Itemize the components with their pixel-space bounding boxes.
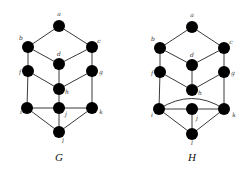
vertex-g: [218, 66, 230, 78]
vertex-a: [186, 21, 198, 33]
vertex-d: [53, 58, 65, 70]
vertex-f: [154, 66, 166, 78]
vertex-label-a: a: [190, 11, 194, 18]
edge-i-l: [159, 109, 192, 134]
graph-g: abcdfghijklG: [18, 10, 103, 163]
vertex-label-d: d: [190, 51, 194, 58]
vertex-label-c: c: [229, 38, 233, 45]
graph-h: abcdfghijklH: [150, 11, 236, 163]
vertex-label-i: i: [20, 108, 22, 115]
vertex-label-l: l: [191, 139, 193, 146]
vertex-label-h: h: [198, 89, 202, 96]
vertex-j: [53, 102, 65, 114]
vertex-k: [218, 103, 230, 115]
vertex-label-b: b: [151, 35, 155, 42]
edge-k-l: [59, 108, 92, 132]
vertex-label-k: k: [232, 111, 236, 118]
vertex-label-g: g: [231, 69, 235, 77]
vertex-label-c: c: [97, 37, 101, 44]
vertex-h: [186, 84, 198, 96]
vertex-label-d: d: [57, 50, 61, 57]
edge-k-l: [192, 109, 224, 134]
vertex-label-j: j: [194, 114, 198, 122]
vertex-c: [218, 42, 230, 54]
vertex-h: [53, 83, 65, 95]
graph-name-label: G: [55, 151, 63, 163]
vertex-g: [86, 65, 98, 77]
vertex-label-a: a: [57, 10, 61, 17]
vertex-b: [22, 41, 34, 53]
graph-diagram-canvas: abcdfghijklG abcdfghijklH: [0, 0, 248, 175]
vertex-i: [21, 102, 33, 114]
vertex-c: [86, 41, 98, 53]
vertex-label-h: h: [65, 88, 69, 95]
vertex-label-i: i: [151, 111, 153, 118]
vertex-i: [153, 103, 165, 115]
vertex-label-g: g: [99, 68, 103, 76]
vertex-k: [86, 102, 98, 114]
vertex-a: [53, 20, 65, 32]
vertex-label-b: b: [19, 34, 23, 41]
vertex-label-l: l: [62, 137, 64, 144]
vertex-d: [186, 59, 198, 71]
vertex-b: [154, 42, 166, 54]
vertex-f: [22, 65, 34, 77]
vertex-label-k: k: [99, 108, 103, 115]
graph-name-label: H: [187, 151, 197, 163]
